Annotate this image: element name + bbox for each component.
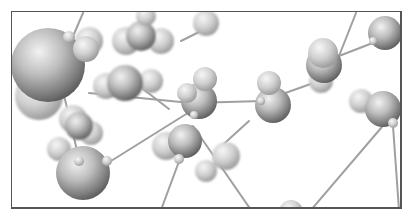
image-frame	[11, 11, 402, 209]
molecule-illustration	[12, 12, 402, 209]
